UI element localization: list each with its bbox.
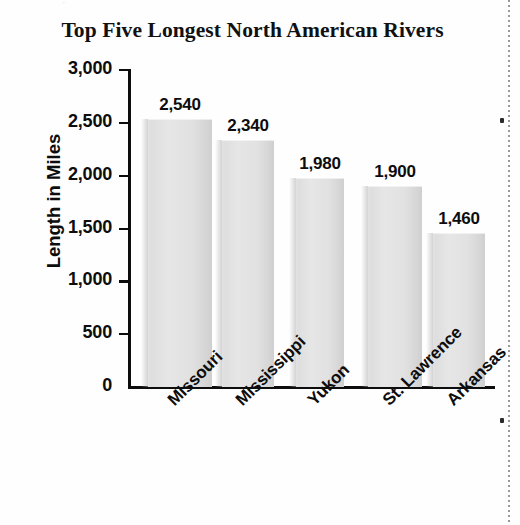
y-axis-tick-label: 3,000 [12,58,112,79]
y-axis-tick-label: 1,000 [12,269,112,290]
bar [368,186,422,387]
plot-area: Length in Miles 05001,0001,5002,0002,500… [0,0,520,525]
y-axis-tick [119,175,129,177]
bar [148,119,212,387]
bar [296,178,344,387]
bar [222,140,274,387]
chart-page: · Top Five Longest North American Rivers… [0,0,520,525]
y-axis-tick-label: 2,500 [12,111,112,132]
bar-value-label: 2,340 [212,116,284,136]
y-axis-tick [119,280,129,282]
bar-value-label: 2,540 [144,95,216,115]
y-axis-title: Length in Miles [43,121,65,281]
y-axis-tick [119,333,129,335]
bar-value-label: 1,460 [423,209,495,229]
y-axis-tick [119,228,129,230]
y-axis-tick-label: 2,000 [12,164,112,185]
y-axis-tick-label: 1,500 [12,217,112,238]
y-axis-tick [119,122,129,124]
y-axis-tick [119,69,129,71]
bar-value-label: 1,900 [359,162,431,182]
bar-value-label: 1,980 [284,154,356,174]
y-axis-tick-label: 500 [12,322,112,343]
y-axis-tick-label: 0 [12,375,112,396]
